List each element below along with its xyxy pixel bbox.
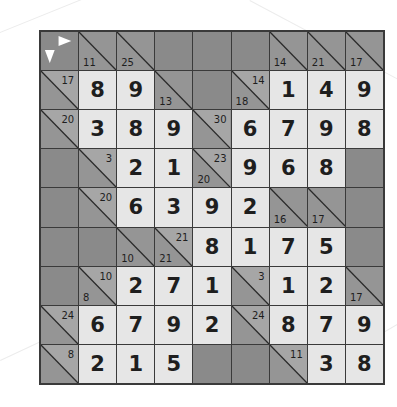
- clue-down-sum: 17: [312, 214, 325, 225]
- value-cell[interactable]: 6: [117, 188, 154, 226]
- value-cell[interactable]: 8: [270, 306, 307, 344]
- value-cell[interactable]: 7: [155, 267, 192, 305]
- value-cell[interactable]: 9: [193, 188, 230, 226]
- clue-cell: 24: [232, 306, 269, 344]
- clue-down-sum: 21: [159, 253, 172, 264]
- clue-cell: 8: [41, 345, 78, 383]
- value-cell[interactable]: 7: [308, 306, 345, 344]
- clue-cell: 13: [155, 71, 192, 109]
- blocked-cell: [41, 267, 78, 305]
- clue-down-sum: 25: [121, 57, 134, 68]
- corner-cell: [41, 32, 78, 70]
- clue-down-sum: 8: [83, 292, 89, 303]
- value-cell[interactable]: 2: [308, 267, 345, 305]
- blocked-cell: [346, 149, 383, 187]
- value-cell[interactable]: 2: [79, 345, 116, 383]
- clue-right-sum: 14: [252, 75, 265, 86]
- clue-cell: 2023: [193, 149, 230, 187]
- clue-cell: 24: [41, 306, 78, 344]
- blocked-cell: [346, 228, 383, 266]
- clue-cell: 17: [346, 267, 383, 305]
- value-cell[interactable]: 7: [117, 306, 154, 344]
- clue-right-sum: 17: [61, 75, 74, 86]
- value-cell[interactable]: 8: [79, 71, 116, 109]
- clue-cell: 11: [270, 345, 307, 383]
- value-cell[interactable]: 1: [270, 267, 307, 305]
- value-cell[interactable]: 6: [270, 149, 307, 187]
- blocked-cell: [232, 32, 269, 70]
- clue-cell: 14: [270, 32, 307, 70]
- value-cell[interactable]: 3: [308, 345, 345, 383]
- value-cell[interactable]: 6: [232, 110, 269, 148]
- value-cell[interactable]: 8: [117, 110, 154, 148]
- value-cell[interactable]: 3: [155, 188, 192, 226]
- value-cell[interactable]: 9: [155, 306, 192, 344]
- clue-down-sum: 17: [350, 57, 363, 68]
- value-cell[interactable]: 1: [155, 149, 192, 187]
- value-cell[interactable]: 1: [193, 267, 230, 305]
- value-cell[interactable]: 9: [155, 110, 192, 148]
- value-cell[interactable]: 8: [308, 149, 345, 187]
- clue-down-sum: 17: [350, 292, 363, 303]
- value-cell[interactable]: 9: [117, 71, 154, 109]
- value-cell[interactable]: 5: [308, 228, 345, 266]
- blocked-cell: [79, 228, 116, 266]
- clue-right-sum: 24: [61, 310, 74, 321]
- value-cell[interactable]: 9: [232, 149, 269, 187]
- value-cell[interactable]: 6: [79, 306, 116, 344]
- clue-down-sum: 11: [83, 57, 96, 68]
- value-cell[interactable]: 2: [193, 306, 230, 344]
- clue-cell: 17: [41, 71, 78, 109]
- clue-cell: 1814: [232, 71, 269, 109]
- clue-right-sum: 3: [258, 271, 264, 282]
- clue-cell: 17: [346, 32, 383, 70]
- clue-right-sum: 20: [99, 192, 112, 203]
- blocked-cell: [232, 345, 269, 383]
- clue-down-sum: 10: [121, 253, 134, 264]
- clue-down-sum: 13: [159, 96, 172, 107]
- value-cell[interactable]: 9: [346, 306, 383, 344]
- value-cell[interactable]: 7: [270, 228, 307, 266]
- value-cell[interactable]: 9: [346, 71, 383, 109]
- blocked-cell: [155, 32, 192, 70]
- value-cell[interactable]: 1: [270, 71, 307, 109]
- value-cell[interactable]: 4: [308, 71, 345, 109]
- value-cell[interactable]: 3: [79, 110, 116, 148]
- value-cell[interactable]: 7: [270, 110, 307, 148]
- clue-cell: 21: [308, 32, 345, 70]
- value-cell[interactable]: 8: [193, 228, 230, 266]
- clue-right-sum: 3: [106, 153, 112, 164]
- clue-down-sum: 21: [312, 57, 325, 68]
- value-cell[interactable]: 2: [117, 267, 154, 305]
- clue-cell: 3: [232, 267, 269, 305]
- blocked-cell: [193, 345, 230, 383]
- value-cell[interactable]: 2: [117, 149, 154, 187]
- clue-cell: 30: [193, 110, 230, 148]
- value-cell[interactable]: 9: [308, 110, 345, 148]
- blocked-cell: [41, 188, 78, 226]
- kakuro-grid: 1125142117178913181414920389306798321202…: [39, 30, 385, 385]
- clue-right-sum: 20: [61, 114, 74, 125]
- clue-right-sum: 10: [99, 271, 112, 282]
- blocked-cell: [41, 149, 78, 187]
- clue-right-sum: 23: [214, 153, 227, 164]
- clue-down-sum: 18: [236, 96, 249, 107]
- clue-right-sum: 8: [68, 349, 74, 360]
- clue-cell: 20: [79, 188, 116, 226]
- clue-cell: 810: [79, 267, 116, 305]
- value-cell[interactable]: 8: [346, 110, 383, 148]
- clue-cell: 3: [79, 149, 116, 187]
- value-cell[interactable]: 8: [346, 345, 383, 383]
- direction-arrows-icon: [41, 32, 78, 70]
- value-cell[interactable]: 5: [155, 345, 192, 383]
- blocked-cell: [193, 71, 230, 109]
- clue-right-sum: 21: [176, 232, 189, 243]
- clue-cell: 2121: [155, 228, 192, 266]
- value-cell[interactable]: 1: [117, 345, 154, 383]
- blocked-cell: [346, 188, 383, 226]
- blocked-cell: [193, 32, 230, 70]
- blocked-cell: [41, 228, 78, 266]
- value-cell[interactable]: 2: [232, 188, 269, 226]
- value-cell[interactable]: 1: [232, 228, 269, 266]
- clue-cell: 16: [270, 188, 307, 226]
